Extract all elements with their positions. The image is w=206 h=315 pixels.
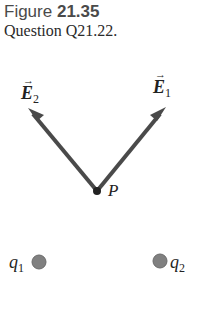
point-p-dot bbox=[93, 187, 101, 195]
charge-q1 bbox=[32, 255, 46, 269]
charge-q2-label: q2 bbox=[170, 252, 185, 276]
vector-arrow-icon: → bbox=[23, 74, 34, 86]
vector-e2-label: →E2 bbox=[21, 83, 39, 107]
vector-e1-label: →E1 bbox=[153, 77, 171, 101]
point-p-label: P bbox=[108, 181, 118, 201]
vector-arrow-icon: → bbox=[155, 68, 166, 80]
charge-q2 bbox=[153, 254, 167, 268]
vector-e2-arrow bbox=[28, 108, 97, 191]
charge-q1-label: q1 bbox=[9, 252, 24, 276]
vector-e1-arrow bbox=[97, 107, 166, 191]
